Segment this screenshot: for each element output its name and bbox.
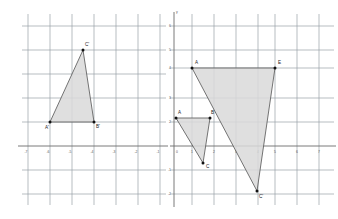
y-axis-name-label: y <box>176 10 178 14</box>
vertex-label-A-prime-left: A' <box>45 125 49 130</box>
left-tick--3: -3 <box>112 150 115 154</box>
left-tick--5: -5 <box>68 150 71 154</box>
coordinate-plane-svg: -7 -6 -5 -4 -3 -2 -1 A' B' C' <box>0 0 338 219</box>
vertex-label-C-prime-large: C' <box>259 194 263 199</box>
vertex-label-B-prime-left: B' <box>96 124 100 129</box>
vertex-label-E-large: E <box>278 60 281 65</box>
right-tick-5: 5 <box>274 150 276 154</box>
vertex-point-E-large[interactable] <box>274 67 277 70</box>
right-ytick-6: 6 <box>169 24 171 28</box>
right-tick-0: 0 <box>176 150 178 154</box>
vertex-point-A-small[interactable] <box>175 117 178 120</box>
right-tick-7: 7 <box>318 150 320 154</box>
left-tick--2: -2 <box>134 150 137 154</box>
right-tick-6: 6 <box>296 150 298 154</box>
right-ytick-5: 5 <box>169 48 171 52</box>
right-ytick--1: -1 <box>168 168 171 172</box>
vertex-point-C-small[interactable] <box>202 162 205 165</box>
vertex-point-B-small[interactable] <box>209 117 212 120</box>
math-figure-canvas: -7 -6 -5 -4 -3 -2 -1 A' B' C' <box>0 0 338 219</box>
vertex-point-A-prime-left[interactable] <box>49 121 52 124</box>
vertex-point-C-prime-large[interactable] <box>256 190 259 193</box>
right-tick-2: 2 <box>213 150 215 154</box>
right-tick-1: 1 <box>191 150 193 154</box>
right-ytick--2: -2 <box>168 192 171 196</box>
right-ytick-3: 3 <box>169 96 171 100</box>
vertex-point-A-large[interactable] <box>191 67 194 70</box>
vertex-label-B-small: B <box>211 110 214 115</box>
left-tick--1: -1 <box>156 150 159 154</box>
right-ytick-4: 4 <box>169 66 171 70</box>
figure-background <box>0 0 338 219</box>
left-tick--4: -4 <box>90 150 93 154</box>
left-tick--7: -7 <box>24 150 27 154</box>
right-ytick-2: 2 <box>169 120 171 124</box>
vertex-label-C-prime-left: C' <box>85 42 89 47</box>
vertex-point-C-prime-left[interactable] <box>82 49 85 52</box>
left-tick--6: -6 <box>46 150 49 154</box>
